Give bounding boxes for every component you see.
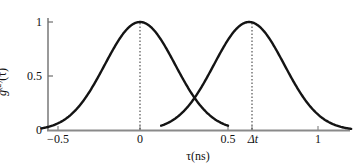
y-tick-label-1: 1 [28, 16, 42, 28]
x-axis-label: τ(ns) [186, 150, 209, 162]
y-axis-label: g(2)(τ) [0, 68, 8, 96]
correlation-function-figure: 1 0.5 0 −0.5 0 0.5 Δt 1 τ(ns) g(2)(τ) [0, 0, 354, 167]
y-tick-label-0: 0 [28, 124, 42, 136]
gaussian-curve-pulse-2 [161, 22, 351, 129]
x-tick-label-0.5: 0.5 [221, 133, 236, 145]
y-tick-label-0.5: 0.5 [16, 70, 42, 82]
y-axis-label-base: g [0, 90, 9, 96]
x-tick-label-0: 0 [137, 133, 143, 145]
y-axis-label-argument: (τ) [0, 68, 9, 81]
x-tick-label-1: 1 [315, 133, 321, 145]
x-tick-label-neg-0.5: −0.5 [47, 133, 69, 145]
y-axis-label-superscript: (2) [0, 81, 3, 90]
gaussian-curve-pulse-1 [41, 22, 228, 128]
x-tick-label-delta-t: Δt [248, 133, 258, 145]
